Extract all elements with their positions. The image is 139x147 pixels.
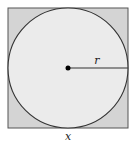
center-point [66, 66, 71, 71]
side-length-label: x [65, 130, 72, 143]
radius-label: r [94, 54, 100, 67]
circle-in-square-diagram: r x [0, 0, 139, 147]
